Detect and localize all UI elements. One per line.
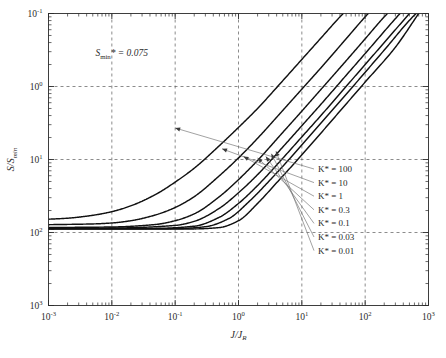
legend-item-6: K* = 0.01	[318, 246, 354, 256]
curve-series-5	[49, 14, 417, 229]
x-tick-label: 102	[359, 310, 372, 322]
y-axis-title: S/Smin	[5, 147, 19, 171]
legend-leader-line-1	[222, 149, 314, 183]
x-axis-title: J/JR	[231, 329, 248, 343]
curve-series-4	[49, 14, 410, 229]
curves-group	[49, 14, 419, 230]
y-tick-label: 10-1	[28, 7, 43, 19]
curve-series-3	[49, 14, 401, 229]
log-log-chart: 10-310-210-110010110210310310210110010-1…	[0, 0, 446, 358]
legend-item-2: K* = 1	[318, 191, 343, 201]
legend-group: K* = 100K* = 10K* = 1K* = 0.3K* = 0.1K* …	[318, 164, 355, 256]
curve-series-0	[49, 14, 344, 220]
x-tick-label: 10-2	[104, 310, 119, 322]
legend-item-1: K* = 10	[318, 178, 348, 188]
legend-arrowhead-0	[175, 127, 180, 131]
x-tick-label: 100	[232, 310, 246, 322]
legend-item-4: K* = 0.1	[318, 218, 350, 228]
x-tick-label: 10-3	[41, 310, 57, 322]
x-tick-label: 10-1	[168, 310, 183, 322]
legend-leader-line-0	[175, 128, 314, 169]
figure-container: 10-310-210-110010110210310310210110010-1…	[0, 0, 446, 358]
y-tick-label: 103	[30, 299, 44, 311]
svg-text:S/Smin: S/Smin	[5, 147, 19, 171]
y-tick-label: 102	[30, 226, 43, 238]
y-tick-label: 100	[30, 80, 44, 92]
s-min-star-annotation: Smin* = 0.075	[95, 48, 148, 59]
legend-item-3: K* = 0.3	[318, 205, 350, 215]
legend-leader-line-6	[276, 151, 314, 250]
legend-item-0: K* = 100	[318, 164, 353, 174]
legend-arrowhead-1	[222, 149, 227, 153]
annotations-group: Smin* = 0.075	[95, 48, 148, 59]
x-tick-label: 101	[295, 310, 308, 322]
legend-item-5: K* = 0.03	[318, 232, 355, 242]
y-tick-label: 101	[30, 153, 43, 165]
x-tick-label: 103	[422, 310, 436, 322]
